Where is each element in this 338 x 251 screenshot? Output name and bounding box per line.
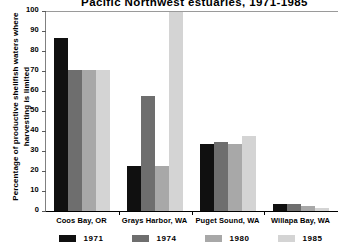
x-axis-label: Coos Bay, OR — [45, 216, 118, 225]
bar-groups — [46, 11, 337, 212]
y-axis-title: Percentage of productive shellfish water… — [11, 7, 32, 207]
legend-label: 1971 — [83, 234, 103, 243]
y-tick-mark — [42, 131, 46, 132]
y-tick-mark — [42, 91, 46, 92]
y-tick-label: 70 — [30, 65, 39, 74]
y-tick-mark — [42, 71, 46, 72]
y-tick-mark — [42, 211, 46, 212]
y-tick: 40 — [1, 131, 46, 132]
y-tick-label: 10 — [30, 185, 39, 194]
legend-swatch — [59, 235, 76, 242]
y-tick: 90 — [1, 31, 46, 32]
y-tick: 80 — [1, 51, 46, 52]
bar — [155, 166, 169, 212]
legend-item[interactable]: 1974 — [118, 234, 191, 243]
bar — [228, 144, 242, 212]
y-tick-mark — [42, 171, 46, 172]
x-tick-mark — [192, 212, 193, 215]
x-tick-mark — [264, 212, 265, 215]
legend-item[interactable]: 1971 — [45, 234, 118, 243]
bar — [96, 70, 110, 212]
legend-swatch — [205, 235, 222, 242]
legend-swatch — [132, 235, 149, 242]
bar — [54, 38, 68, 212]
bar — [214, 142, 228, 212]
y-tick-label: 20 — [30, 165, 39, 174]
bar-group — [119, 11, 192, 212]
x-tick-mark — [119, 212, 120, 215]
bar-group-bars — [119, 11, 192, 212]
bar — [200, 144, 214, 212]
y-tick-mark — [42, 191, 46, 192]
legend-label: 1974 — [156, 234, 176, 243]
y-tick: 0 — [1, 211, 46, 212]
y-tick: 10 — [1, 191, 46, 192]
y-tick-mark — [42, 111, 46, 112]
x-axis-line — [46, 211, 338, 212]
bar-group — [192, 11, 265, 212]
bar-group-bars — [46, 11, 119, 212]
y-tick: 60 — [1, 91, 46, 92]
x-axis-label: Grays Harbor, WA — [118, 216, 191, 225]
bar — [169, 12, 183, 212]
bar-group-bars — [264, 11, 337, 212]
bar — [242, 136, 256, 212]
bar-group-bars — [192, 11, 265, 212]
y-tick-label: 0 — [35, 205, 39, 214]
y-tick: 20 — [1, 171, 46, 172]
y-tick-label: 80 — [30, 45, 39, 54]
bar-group — [264, 11, 337, 212]
y-tick-mark — [42, 31, 46, 32]
x-axis-labels: Coos Bay, ORGrays Harbor, WAPuget Sound,… — [45, 216, 337, 225]
y-tick-mark — [42, 51, 46, 52]
y-tick: 30 — [1, 151, 46, 152]
y-tick-label: 50 — [30, 105, 39, 114]
legend-item[interactable]: 1985 — [264, 234, 337, 243]
legend-label: 1980 — [229, 234, 249, 243]
bar — [141, 96, 155, 212]
y-tick: 100 — [1, 11, 46, 12]
legend-item[interactable]: 1980 — [191, 234, 264, 243]
chart-title: Pacific Northwest estuaries, 1971-1985 — [52, 0, 337, 8]
x-axis-label: Willapa Bay, WA — [264, 216, 337, 225]
y-tick: 50 — [1, 111, 46, 112]
y-tick-label: 30 — [30, 145, 39, 154]
y-tick-label: 40 — [30, 125, 39, 134]
y-tick-label: 100 — [26, 5, 39, 14]
legend-swatch — [278, 235, 295, 242]
chart-legend: 1971197419801985 — [45, 234, 337, 243]
x-axis-label: Puget Sound, WA — [191, 216, 264, 225]
legend-label: 1985 — [302, 234, 322, 243]
bar-group — [46, 11, 119, 212]
bar — [68, 70, 82, 212]
plot-inner — [46, 11, 337, 212]
bar — [82, 70, 96, 212]
y-tick-label: 60 — [30, 85, 39, 94]
y-tick-mark — [42, 151, 46, 152]
plot-area: 0102030405060708090100 — [45, 11, 337, 212]
y-tick-label: 90 — [30, 25, 39, 34]
y-tick-mark — [42, 11, 46, 12]
bar — [127, 166, 141, 212]
y-tick: 70 — [1, 71, 46, 72]
